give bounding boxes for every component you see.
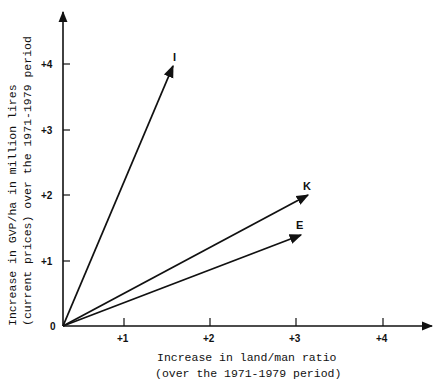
y-tick-label-4: +4 bbox=[41, 59, 53, 70]
y-tick-label-0: 0 bbox=[50, 321, 56, 332]
y-axis-title-line1: Increase in GVP/ha in million lires bbox=[6, 84, 19, 326]
x-tick-label-2: +2 bbox=[203, 333, 215, 344]
vector-K bbox=[63, 195, 308, 326]
y-ticks bbox=[63, 64, 70, 261]
x-ticks bbox=[124, 318, 383, 326]
x-axis-title-line1: Increase in land/man ratio bbox=[157, 351, 337, 364]
vector-E bbox=[63, 235, 301, 326]
x-axis-title-line2: (over the 1971-1979 period) bbox=[155, 367, 341, 380]
vector-label-I: I bbox=[173, 51, 176, 63]
vector-label-K: K bbox=[303, 180, 311, 192]
x-tick-label-1: +1 bbox=[117, 333, 129, 344]
y-tick-label-2: +2 bbox=[41, 190, 53, 201]
vector-chart: 0 +1 +2 +3 +4 +1 +2 +3 +4 I K E Increase… bbox=[0, 0, 440, 384]
x-tick-label-3: +3 bbox=[289, 333, 301, 344]
y-tick-label-3: +3 bbox=[41, 125, 53, 136]
vector-I bbox=[63, 66, 173, 326]
y-axis-title-line2: (current prices) over the 1971-1979 peri… bbox=[21, 36, 34, 326]
y-tick-label-1: +1 bbox=[41, 256, 53, 267]
x-tick-label-4: +4 bbox=[376, 333, 388, 344]
vector-label-E: E bbox=[296, 219, 303, 231]
